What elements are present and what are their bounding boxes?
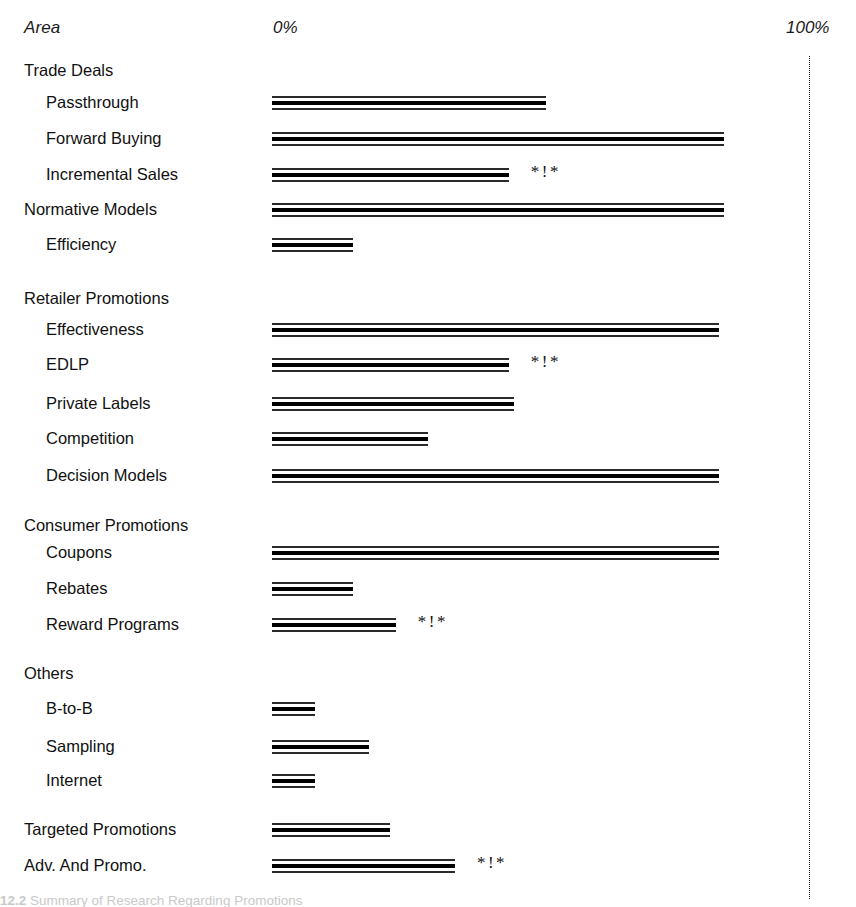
bar-rule-top [272,358,509,360]
value-bar [272,618,396,633]
chart-row: Passthrough [0,92,856,122]
row-label: Normative Models [24,199,157,220]
bar-rule-bottom [272,108,546,110]
bar-rule-middle [272,137,724,141]
value-bar [272,546,719,561]
bar-rule-middle [272,474,719,478]
bar-rule-top [272,774,315,776]
chart-row: Incremental Sales*!* [0,164,856,194]
row-label: Competition [46,428,134,449]
bar-rule-middle [272,437,428,441]
bar-rule-bottom [272,335,719,337]
bar-rule-bottom [272,409,514,411]
value-bar [272,740,369,755]
bar-rule-bottom [272,370,509,372]
row-label: Private Labels [46,393,151,414]
row-label: Effectiveness [46,319,144,340]
bar-rule-top [272,168,509,170]
figure-caption-text: Summary of Research Regarding Promotions [30,893,302,907]
research-area-bar-chart: Area 0% 100% Trade DealsPassthroughForwa… [0,0,856,907]
row-label: Trade Deals [24,60,113,81]
bar-rule-top [272,702,315,704]
row-label: B-to-B [46,698,93,719]
bar-rule-top [272,823,390,825]
row-label: Efficiency [46,234,116,255]
value-bar [272,432,428,447]
figure-caption-number: 12.2 [0,893,26,907]
chart-row: Consumer Promotions [0,515,856,545]
value-bar [272,323,719,338]
bar-rule-top [272,740,369,742]
chart-row: Decision Models [0,465,856,495]
bar-rule-middle [272,208,724,212]
bar-rule-top [272,432,428,434]
bar-rule-top [272,469,719,471]
chart-row: Retailer Promotions [0,288,856,318]
chart-row: Forward Buying [0,128,856,158]
chart-row: Coupons [0,542,856,572]
bar-rule-bottom [272,835,390,837]
value-bar [272,132,724,147]
bar-rule-middle [272,779,315,783]
row-label: Rebates [46,578,107,599]
row-label: Sampling [46,736,115,757]
bar-rule-middle [272,243,353,247]
bar-rule-bottom [272,558,719,560]
value-bar [272,582,353,597]
bar-rule-middle [272,173,509,177]
row-label: Forward Buying [46,128,162,149]
bar-rule-top [272,618,396,620]
bar-rule-bottom [272,144,724,146]
row-label: Reward Programs [46,614,179,635]
bar-rule-bottom [272,444,428,446]
value-bar [272,859,455,874]
bar-rule-bottom [272,786,315,788]
value-bar [272,168,509,183]
chart-row: Sampling [0,736,856,766]
bar-rule-middle [272,745,369,749]
chart-row: Private Labels [0,393,856,423]
row-label: Adv. And Promo. [24,855,147,876]
bar-rule-middle [272,328,719,332]
bar-rule-top [272,96,546,98]
chart-row: Internet [0,770,856,800]
bar-rule-top [272,323,719,325]
bar-rule-middle [272,828,390,832]
row-label: EDLP [46,354,89,375]
chart-row: Reward Programs*!* [0,614,856,644]
bar-rule-middle [272,864,455,868]
value-bar [272,469,719,484]
bar-rule-middle [272,623,396,627]
chart-row: Normative Models [0,199,856,229]
bar-rule-bottom [272,250,353,252]
value-bar [272,358,509,373]
chart-row: B-to-B [0,698,856,728]
value-bar [272,238,353,253]
chart-row: Efficiency [0,234,856,264]
row-label: Coupons [46,542,112,563]
value-bar [272,823,390,838]
bar-rule-bottom [272,714,315,716]
bar-rule-middle [272,587,353,591]
significance-marker: *!* [531,352,561,372]
bar-rule-top [272,546,719,548]
bar-rule-middle [272,363,509,367]
chart-row: Targeted Promotions [0,819,856,849]
row-label: Passthrough [46,92,139,113]
bar-rule-top [272,132,724,134]
bar-rule-bottom [272,752,369,754]
row-label: Consumer Promotions [24,515,188,536]
bar-rule-top [272,238,353,240]
bar-rule-bottom [272,180,509,182]
chart-row: EDLP*!* [0,354,856,384]
significance-marker: *!* [477,853,507,873]
row-label: Retailer Promotions [24,288,169,309]
row-label: Targeted Promotions [24,819,176,840]
bar-rule-top [272,203,724,205]
row-label: Incremental Sales [46,164,178,185]
row-label: Internet [46,770,102,791]
value-bar [272,397,514,412]
chart-row: Effectiveness [0,319,856,349]
row-label: Others [24,663,74,684]
bar-rule-top [272,582,353,584]
